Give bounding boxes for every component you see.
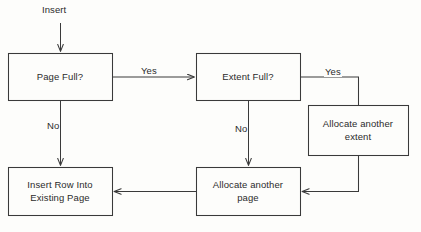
flowchart-canvas: Extent Full? --> Insert Row Into Existin… [0, 0, 421, 232]
node-box-insert-row [9, 168, 113, 216]
edge-label-extent-full-no: No [234, 123, 248, 134]
node-box-allocate-another-page [197, 168, 301, 216]
node-box-page-full [9, 54, 113, 101]
edge-label-page-full-yes: Yes [140, 65, 158, 76]
flowchart-connectors: Extent Full? --> Insert Row Into Existin… [0, 0, 421, 232]
edge-label-extent-full-yes: Yes [324, 66, 342, 77]
node-box-allocate-another-extent [309, 106, 409, 156]
connector-extent-full-yes [301, 77, 359, 105]
entry-label: Insert [41, 4, 67, 15]
connector-extent-to-page [303, 156, 359, 192]
edge-label-page-full-no: No [46, 120, 60, 131]
node-box-extent-full [197, 54, 301, 101]
